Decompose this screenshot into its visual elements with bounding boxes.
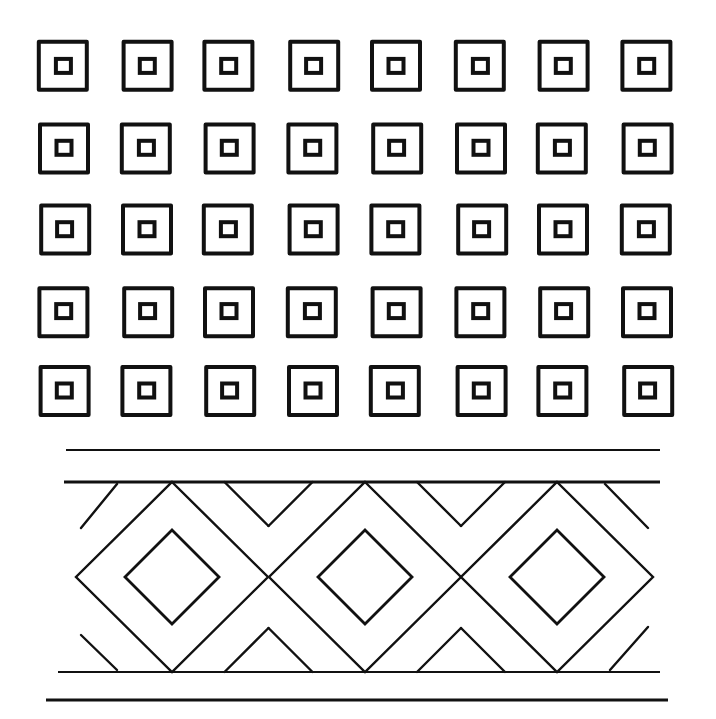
square-motif <box>538 125 586 173</box>
square-motif <box>204 42 252 90</box>
square-motif <box>122 125 170 173</box>
square-motif <box>289 367 337 415</box>
square-motif <box>290 42 338 90</box>
square-motif <box>41 205 89 253</box>
square-motif <box>206 367 254 415</box>
square-motif <box>458 367 506 415</box>
square-motif <box>40 125 88 173</box>
square-motif <box>540 288 588 336</box>
inner-diamond <box>318 530 412 624</box>
square-motif <box>290 205 338 253</box>
square-motif <box>456 42 504 90</box>
ornamental-pattern <box>0 0 716 719</box>
outer-diamond <box>269 482 461 672</box>
square-motif <box>624 367 672 415</box>
square-motif <box>624 125 672 173</box>
square-motif <box>122 367 170 415</box>
square-motif <box>124 288 172 336</box>
inner-diamond <box>510 530 604 624</box>
square-motif <box>373 288 421 336</box>
square-motif <box>372 42 420 90</box>
square-motif <box>539 205 587 253</box>
square-motif <box>540 42 588 90</box>
square-motif <box>622 42 670 90</box>
square-motif <box>123 205 171 253</box>
square-motif <box>622 205 670 253</box>
square-motif <box>288 125 336 173</box>
square-motif <box>206 125 254 173</box>
square-motif <box>457 125 505 173</box>
outer-diamond <box>461 482 653 672</box>
square-motif <box>371 205 419 253</box>
square-motif <box>288 288 336 336</box>
square-grid <box>39 42 672 415</box>
inner-diamond <box>125 530 219 624</box>
square-motif <box>373 125 421 173</box>
square-motif <box>41 367 89 415</box>
outer-diamond <box>76 482 268 672</box>
square-motif <box>623 288 671 336</box>
square-motif <box>39 42 87 90</box>
diamond-band <box>46 450 668 700</box>
square-motif <box>124 42 172 90</box>
square-motif <box>204 205 252 253</box>
square-motif <box>456 288 504 336</box>
square-motif <box>371 367 419 415</box>
square-motif <box>538 367 586 415</box>
square-motif <box>458 205 506 253</box>
square-motif <box>39 288 87 336</box>
square-motif <box>205 288 253 336</box>
